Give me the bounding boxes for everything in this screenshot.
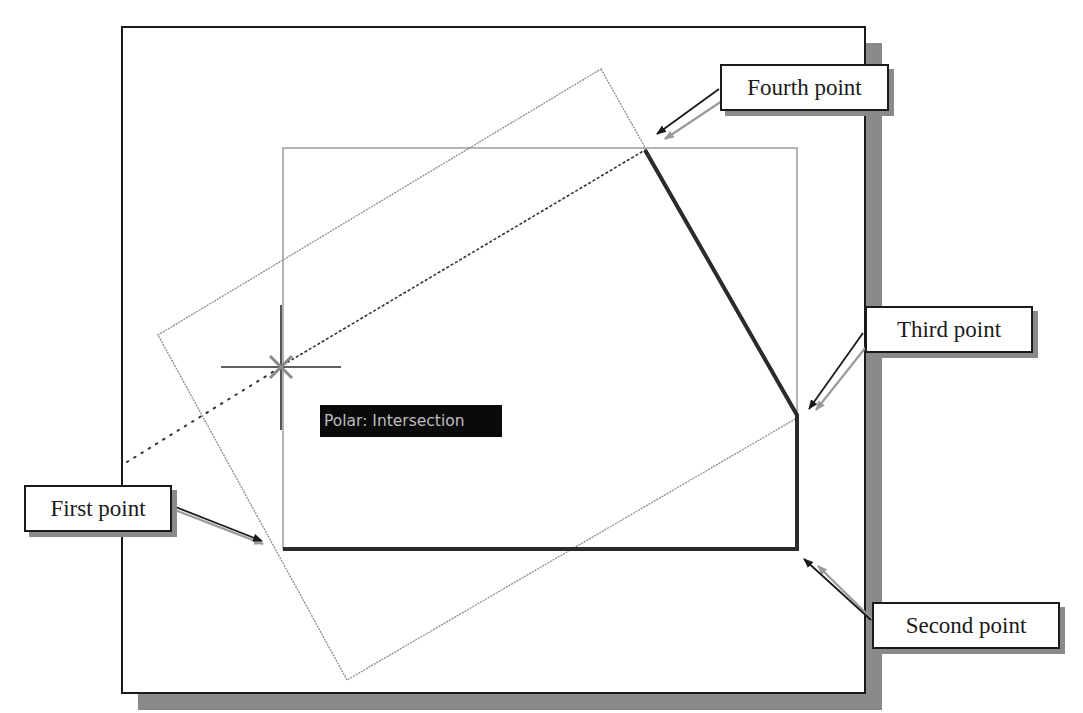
- callout-fourth-point: Fourth point: [720, 64, 889, 111]
- callout-second-point: Second point: [872, 602, 1060, 649]
- viewport-frame: [122, 27, 865, 693]
- polar-intersection-tooltip: Polar: Intersection: [320, 405, 502, 437]
- callout-first-point: First point: [24, 485, 172, 532]
- callout-third-point: Third point: [865, 306, 1033, 353]
- viewport-shadow-bottom: [138, 693, 882, 710]
